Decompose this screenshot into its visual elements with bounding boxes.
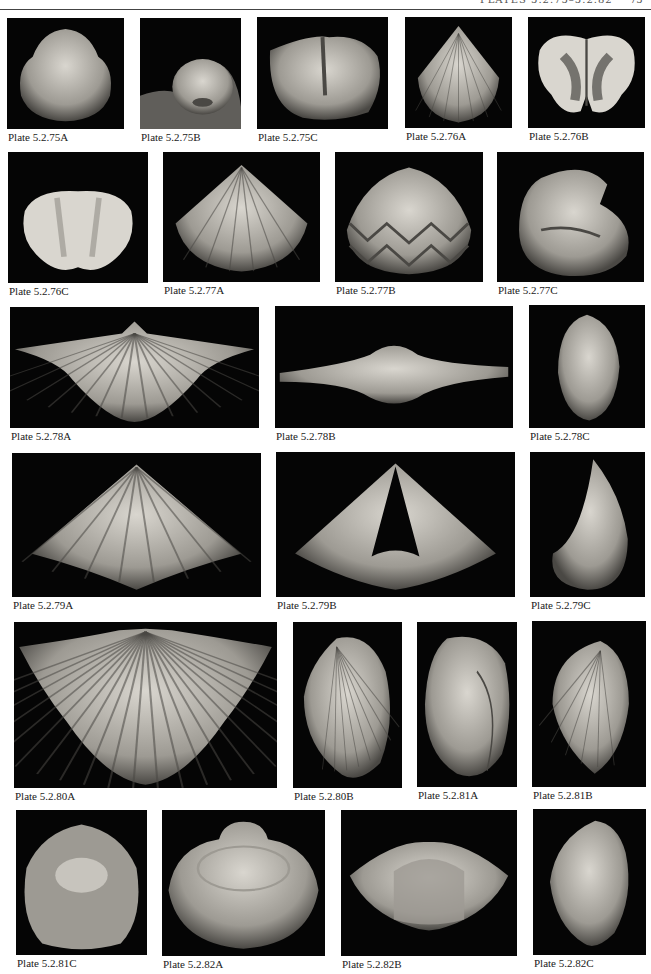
plate-caption: Plate 5.2.81B <box>533 789 593 801</box>
fossil-photo <box>528 17 645 128</box>
plate-figure: Plate 5.2.82C <box>533 809 646 971</box>
fossil-photo <box>140 18 241 129</box>
brachiopod-shell-icon <box>335 152 483 282</box>
brachiopod-shell-icon <box>276 452 515 597</box>
plate-caption: Plate 5.2.78B <box>276 430 336 442</box>
brachiopod-shell-icon <box>417 622 517 787</box>
brachiopod-shell-icon <box>163 152 320 282</box>
plate-figure: Plate 5.2.77A <box>163 152 320 298</box>
brachiopod-shell-icon <box>532 621 646 787</box>
fossil-photo <box>417 622 517 787</box>
plate-caption: Plate 5.2.75C <box>258 131 318 143</box>
brachiopod-shell-icon <box>293 622 402 788</box>
fossil-photo <box>405 17 512 128</box>
fossil-photo <box>14 622 277 788</box>
brachiopod-shell-icon <box>257 17 388 129</box>
fossil-photo <box>163 152 320 282</box>
brachiopod-shell-icon <box>7 18 124 129</box>
fossil-photo <box>533 809 646 955</box>
plate-caption: Plate 5.2.78C <box>530 430 590 442</box>
plate-figure: Plate 5.2.82B <box>341 810 517 972</box>
plate-figure: Plate 5.2.80B <box>293 622 402 804</box>
fossil-photo <box>497 152 644 282</box>
brachiopod-shell-icon <box>533 809 646 955</box>
brachiopod-shell-icon <box>16 810 147 955</box>
brachiopod-shell-icon <box>528 17 645 128</box>
plate-figure: Plate 5.2.79B <box>276 452 515 613</box>
header-rule <box>0 9 651 10</box>
plate-caption: Plate 5.2.77A <box>164 284 224 296</box>
plate-caption: Plate 5.2.82A <box>163 958 223 970</box>
plate-caption: Plate 5.2.79C <box>531 599 591 611</box>
plate-caption: Plate 5.2.77B <box>336 284 396 296</box>
plate-figure: Plate 5.2.78A <box>10 307 259 444</box>
plate-caption: Plate 5.2.76B <box>529 130 589 142</box>
fossil-photo <box>10 307 259 428</box>
plate-caption: Plate 5.2.81C <box>17 957 77 969</box>
plate-caption: Plate 5.2.77C <box>498 284 558 296</box>
plate-caption: Plate 5.2.81A <box>418 789 478 801</box>
plate-figure: Plate 5.2.77B <box>335 152 483 298</box>
plate-figure: Plate 5.2.76C <box>8 152 148 299</box>
fossil-photo <box>530 452 645 597</box>
fossil-photo <box>276 452 515 597</box>
brachiopod-shell-icon <box>14 622 277 788</box>
plate-figure: Plate 5.2.75B <box>140 18 241 145</box>
plate-caption: Plate 5.2.82B <box>342 958 402 970</box>
plate-caption: Plate 5.2.79B <box>277 599 337 611</box>
plate-caption: Plate 5.2.75B <box>141 131 201 143</box>
fossil-photo <box>12 453 261 597</box>
fossil-photo <box>7 18 124 129</box>
plate-figure: Plate 5.2.80A <box>14 622 277 804</box>
fossil-photo <box>257 17 388 129</box>
plate-figure: Plate 5.2.79C <box>530 452 645 613</box>
fossil-photo <box>275 306 513 428</box>
fossil-photo <box>529 305 645 428</box>
plate-caption: Plate 5.2.76A <box>406 130 466 142</box>
plate-figure: Plate 5.2.78B <box>275 306 513 444</box>
brachiopod-shell-icon <box>341 810 517 956</box>
brachiopod-shell-icon <box>8 152 148 283</box>
brachiopod-shell-icon <box>529 305 645 428</box>
fossil-photo <box>16 810 147 955</box>
fossil-photo <box>532 621 646 787</box>
brachiopod-shell-icon <box>405 17 512 128</box>
plate-figure: Plate 5.2.75C <box>257 17 388 145</box>
plate-figure: Plate 5.2.79A <box>12 453 261 613</box>
brachiopod-shell-icon <box>275 306 513 428</box>
brachiopod-shell-icon <box>530 452 645 597</box>
plate-figure: Plate 5.2.76A <box>405 17 512 144</box>
plate-figure: Plate 5.2.76B <box>528 17 645 144</box>
brachiopod-shell-icon <box>140 18 241 129</box>
fossil-photo <box>293 622 402 788</box>
plate-caption: Plate 5.2.75A <box>8 131 68 143</box>
plate-figure: Plate 5.2.81B <box>532 621 646 803</box>
brachiopod-shell-icon <box>162 810 325 956</box>
brachiopod-shell-icon <box>497 152 644 282</box>
plate-figure: Plate 5.2.77C <box>497 152 644 298</box>
plate-figure: Plate 5.2.81C <box>16 810 147 971</box>
plate-figure: Plate 5.2.75A <box>7 18 124 145</box>
brachiopod-shell-icon <box>10 307 259 428</box>
plate-figure: Plate 5.2.81A <box>417 622 517 803</box>
fossil-photo <box>335 152 483 282</box>
brachiopod-shell-icon <box>12 453 261 597</box>
fossil-photo <box>8 152 148 283</box>
plate-figure: Plate 5.2.82A <box>162 810 325 972</box>
plate-figure: Plate 5.2.78C <box>529 305 645 444</box>
plate-caption: Plate 5.2.78A <box>11 430 71 442</box>
plate-caption: Plate 5.2.76C <box>9 285 69 297</box>
page-number: 75 <box>630 0 643 5</box>
plate-caption: Plate 5.2.79A <box>13 599 73 611</box>
plate-caption: Plate 5.2.80B <box>294 790 354 802</box>
fossil-photo <box>341 810 517 956</box>
plate-caption: Plate 5.2.80A <box>15 790 75 802</box>
plate-caption: Plate 5.2.82C <box>534 957 594 969</box>
running-header-title: PLATES 5.2.75–5.2.82 <box>480 0 613 5</box>
fossil-photo <box>162 810 325 956</box>
